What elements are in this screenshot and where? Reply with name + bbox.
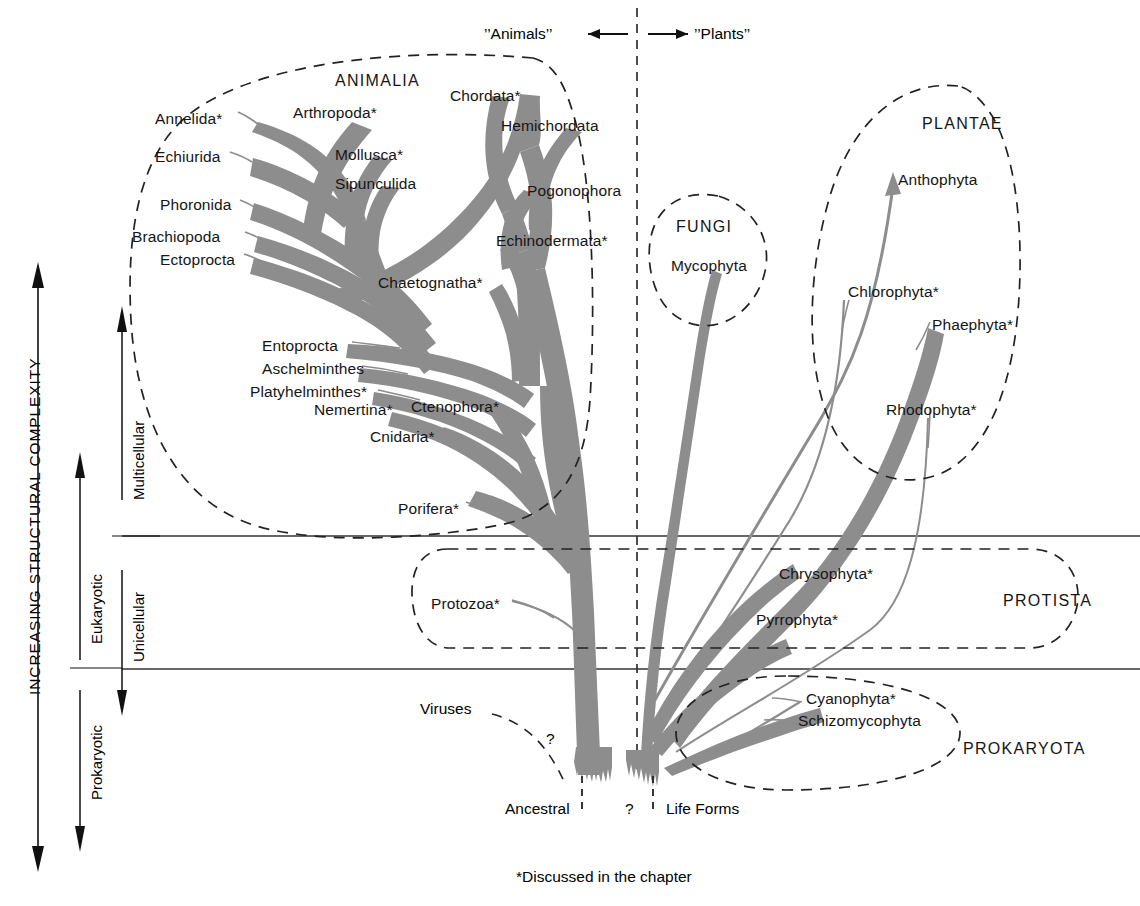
taxon-label-platyhelminthes: Platyhelminthes*	[250, 384, 367, 400]
kingdom-label-fungi: FUNGI	[676, 219, 732, 236]
axis-main-arrow-group	[0, 0, 1140, 906]
taxon-label-annelida: Annelida*	[155, 111, 222, 127]
viruses-label: Viruses	[420, 700, 471, 718]
taxon-label-protozoa: Protozoa*	[431, 596, 500, 612]
kingdom-label-animalia: ANIMALIA	[335, 73, 420, 90]
taxon-label-mycophyta: Mycophyta	[671, 258, 747, 274]
root-question-mark: ?	[625, 800, 634, 818]
taxon-label-chlorophyta: Chlorophyta*	[848, 284, 939, 300]
taxon-label-chordata: Chordata*	[450, 88, 521, 104]
taxon-label-echinodermata: Echinodermata*	[496, 233, 608, 249]
taxon-label-brachiopoda: Brachiopoda	[132, 229, 220, 245]
taxon-label-chaetognatha: Chaetognatha*	[378, 275, 483, 291]
taxon-label-cnidaria: Cnidaria*	[370, 429, 435, 445]
taxon-label-mollusca: Mollusca*	[335, 147, 403, 163]
taxon-label-entoprocta: Entoprocta	[262, 338, 338, 354]
taxon-label-cyanophyta: Cyanophyta*	[806, 691, 896, 707]
kingdom-label-prokaryota: PROKARYOTA	[963, 741, 1086, 758]
taxon-label-rhodophyta: Rhodophyta*	[886, 402, 977, 418]
kingdom-label-protista: PROTISTA	[1003, 593, 1092, 610]
taxon-label-ectoprocta: Ectoprocta	[160, 252, 235, 268]
kingdom-label-plantae: PLANTAE	[922, 116, 1003, 133]
taxon-label-nemertina: Nemertina*	[314, 402, 393, 418]
axis-label-eukaryotic: Eukaryotic	[88, 574, 105, 644]
viruses-question-mark: ?	[546, 730, 555, 748]
taxon-label-anthophyta: Anthophyta	[898, 172, 977, 188]
taxon-label-chrysophyta: Chrysophyta*	[779, 566, 873, 582]
axis-label-prokaryotic: Prokaryotic	[88, 725, 105, 800]
taxon-label-pyrrophyta: Pyrrophyta*	[756, 612, 838, 628]
taxon-label-echiurida: Echiurida	[155, 149, 221, 165]
footnote-label: *Discussed in the chapter	[516, 868, 692, 886]
phylogenetic-tree-figure: ’’Animals’’ ’’Plants’’ INCREASING STRUCT…	[0, 0, 1140, 906]
axis-label-unicellular: Unicellular	[130, 592, 147, 662]
taxon-label-arthropoda: Arthropoda*	[293, 105, 377, 121]
ancestral-label: Ancestral	[505, 800, 570, 818]
taxon-label-schizomycophyta: Schizomycophyta	[798, 713, 921, 729]
taxon-label-pogonophora: Pogonophora	[527, 183, 621, 199]
taxon-label-hemichordata: Hemichordata	[501, 118, 599, 134]
taxon-label-sipunculida: Sipunculida	[335, 176, 416, 192]
axis-label-multicellular: Multicellular	[130, 421, 147, 500]
life-forms-label: Life Forms	[666, 800, 739, 818]
taxon-label-ctenophora: Ctenophora*	[411, 399, 499, 415]
taxon-label-porifera: Porifera*	[398, 501, 459, 517]
taxon-label-aschelminthes: Aschelminthes	[262, 361, 364, 377]
taxon-label-phaephyta: Phaephyta*	[932, 317, 1013, 333]
taxon-label-phoronida: Phoronida	[160, 197, 232, 213]
